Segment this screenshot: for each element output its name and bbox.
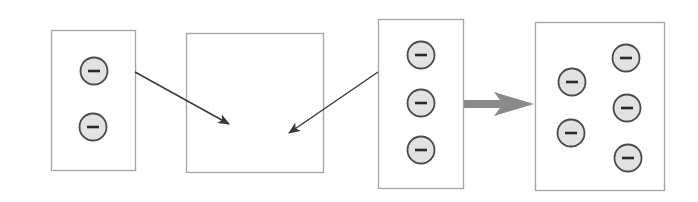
negative-charge-icon [558,120,585,147]
negative-charge-icon [408,42,435,69]
negative-charge-icon [408,137,435,164]
charges [80,42,642,172]
thick-arrow-icon [464,92,534,116]
container-box-2 [187,34,324,173]
container-box-1 [52,31,136,171]
result-arrow [464,92,534,116]
transfer-arrows [135,72,378,133]
negative-charge-icon [408,90,435,117]
negative-charge-icon [559,69,586,96]
negative-charge-icon [615,145,642,172]
negative-charge-icon [613,45,640,72]
negative-charge-icon [81,58,108,85]
negative-charge-icon [614,95,641,122]
container-box-4 [536,23,665,191]
arrow-box3-to-box2-icon [289,72,378,133]
negative-charge-icon [80,114,107,141]
containers [52,20,665,191]
arrow-box1-to-box2-icon [135,72,229,124]
charge-combination-diagram [0,0,698,202]
